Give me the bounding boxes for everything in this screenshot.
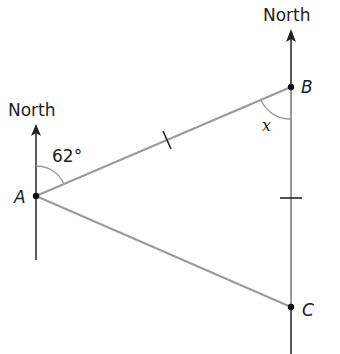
angle-arc-a: [36, 166, 64, 184]
side-ac: [36, 196, 291, 307]
angle-label-x: x: [262, 116, 271, 135]
point-label-b: B: [301, 77, 313, 97]
angle-label-62: 62°: [52, 146, 82, 166]
north-label-a: North: [8, 100, 56, 120]
north-label-b: North: [263, 5, 311, 25]
side-ab: [36, 87, 291, 196]
bearing-diagram: North North 62° x A B C: [0, 0, 340, 354]
point-label-a: A: [13, 187, 26, 207]
point-c: [288, 304, 294, 310]
north-line-a: [31, 124, 41, 260]
point-b: [288, 84, 294, 90]
point-label-c: C: [302, 300, 314, 320]
equal-tick-ab: [163, 131, 171, 149]
point-a: [33, 193, 39, 199]
